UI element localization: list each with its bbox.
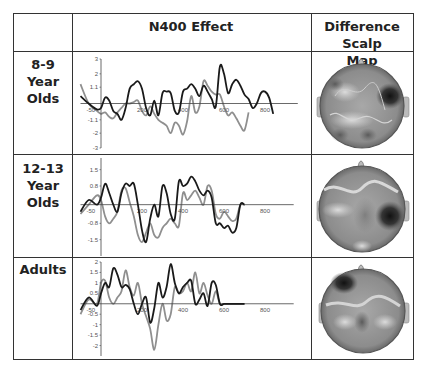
x-tick-label: 800 xyxy=(260,107,271,113)
n400-chart-adults: 21.510.5-0.5-1-1.5-2-50200400600800 xyxy=(81,259,294,356)
n400-chart-12-13: 1.50.8-0.8-1.5-50200400600800 xyxy=(81,158,294,256)
x-tick-label: -50 xyxy=(86,307,95,313)
y-tick-label: -3 xyxy=(93,145,99,151)
y-tick-label: -1.5 xyxy=(88,237,99,243)
scalp-map-12-13 xyxy=(317,161,409,252)
x-tick-label: 400 xyxy=(178,208,189,214)
y-tick-label: 3 xyxy=(95,56,99,62)
x-tick-label: -50 xyxy=(86,208,95,214)
x-tick-label: 600 xyxy=(219,107,230,113)
x-tick-label: 400 xyxy=(178,307,189,313)
scalp-map-adults xyxy=(319,265,409,353)
series-dark-line xyxy=(81,264,245,323)
y-tick-label: -1.1 xyxy=(88,117,99,123)
x-tick-label: 600 xyxy=(219,208,230,214)
y-tick-label: 2 xyxy=(95,259,99,265)
y-tick-label: -2 xyxy=(93,343,99,349)
y-tick-label: -1 xyxy=(93,322,99,328)
scalp-map-8-9 xyxy=(317,59,409,148)
n400-chart-8-9: 321.1-1.1-2-3-50200400600800 xyxy=(81,56,298,151)
y-tick-label: 1.1 xyxy=(90,84,99,90)
y-tick-label: 1 xyxy=(95,280,99,286)
y-tick-label: -1.5 xyxy=(88,332,99,338)
charts-layer: 321.1-1.1-2-3-50200400600800 1.50.8-0.8-… xyxy=(0,0,423,371)
x-tick-label: 800 xyxy=(260,307,271,313)
y-tick-label: 1.5 xyxy=(90,269,99,275)
y-tick-label: 2 xyxy=(95,71,99,77)
y-tick-label: -0.8 xyxy=(88,220,99,226)
y-tick-label: 0.8 xyxy=(90,183,99,189)
y-tick-label: -2 xyxy=(93,130,99,136)
series-dark-line xyxy=(81,65,274,120)
x-tick-label: 600 xyxy=(219,307,230,313)
x-tick-label: 800 xyxy=(260,208,271,214)
y-tick-label: 1.5 xyxy=(90,167,99,173)
y-tick-label: 0.5 xyxy=(90,290,99,296)
